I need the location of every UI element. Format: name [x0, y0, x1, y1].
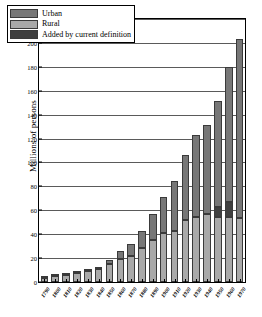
legend-item: Added by current definition: [10, 30, 131, 40]
x-tick-label: 1790: [40, 286, 51, 299]
plot-area: 020406080100120140160180200220: [38, 18, 246, 283]
x-tick-mark: [44, 279, 45, 282]
x-tick-label: 1860: [116, 286, 127, 299]
legend-swatch-rural: [10, 20, 38, 29]
x-tick-label: 1910: [170, 286, 181, 299]
x-tick-label: 1920: [181, 286, 192, 299]
x-tick-label: 1870: [127, 286, 138, 299]
legend-item: Rural: [10, 19, 131, 29]
x-tick-label: 1840: [94, 286, 105, 299]
y-tick-label: 80: [31, 183, 38, 190]
x-tick-mark: [142, 279, 143, 282]
x-tick-label: 1850: [105, 286, 116, 299]
x-tick-mark: [55, 279, 56, 282]
x-tick-label: 1930: [192, 286, 203, 299]
x-tick-mark: [164, 279, 165, 282]
x-axis-ticks: [39, 19, 245, 282]
x-tick-mark: [88, 279, 89, 282]
x-tick-mark: [175, 279, 176, 282]
legend-label-urban: Urban: [42, 10, 62, 18]
x-tick-mark: [77, 279, 78, 282]
y-tick-label: 140: [27, 111, 37, 118]
y-tick-label: 20: [31, 255, 38, 262]
x-tick-label: 1830: [83, 286, 94, 299]
chart-legend: Urban Rural Added by current definition: [7, 5, 135, 43]
legend-label-added: Added by current definition: [42, 31, 131, 39]
x-tick-label: 1820: [73, 286, 84, 299]
x-tick-label: 1950: [213, 286, 224, 299]
legend-item: Urban: [10, 9, 131, 19]
x-tick-mark: [153, 279, 154, 282]
x-tick-label: 1940: [203, 286, 214, 299]
x-tick-mark: [66, 279, 67, 282]
x-tick-label: 1960: [224, 286, 235, 299]
x-tick-mark: [196, 279, 197, 282]
x-tick-label: 1900: [159, 286, 170, 299]
x-tick-mark: [120, 279, 121, 282]
x-tick-label: 1970: [235, 286, 246, 299]
x-tick-mark: [185, 279, 186, 282]
x-tick-mark: [131, 279, 132, 282]
x-tick-mark: [229, 279, 230, 282]
y-tick-label: 60: [31, 207, 38, 214]
y-tick-label: 120: [27, 135, 37, 142]
x-tick-mark: [207, 279, 208, 282]
x-tick-mark: [240, 279, 241, 282]
x-tick-label: 1880: [138, 286, 149, 299]
x-tick-label: 1810: [62, 286, 73, 299]
y-tick-label: 180: [27, 63, 37, 70]
y-tick-label: 100: [27, 159, 37, 166]
y-tick-label: 160: [27, 87, 37, 94]
legend-label-rural: Rural: [42, 20, 60, 28]
x-tick-mark: [218, 279, 219, 282]
y-tick-label: 0: [34, 279, 37, 286]
x-tick-mark: [109, 279, 110, 282]
x-tick-label: 1890: [148, 286, 159, 299]
x-tick-mark: [99, 279, 100, 282]
legend-swatch-urban: [10, 9, 38, 18]
x-tick-label: 1800: [51, 286, 62, 299]
legend-swatch-added: [10, 30, 38, 39]
y-tick-label: 40: [31, 231, 38, 238]
population-bar-chart: Millions of persons 02040608010012014016…: [0, 0, 262, 317]
